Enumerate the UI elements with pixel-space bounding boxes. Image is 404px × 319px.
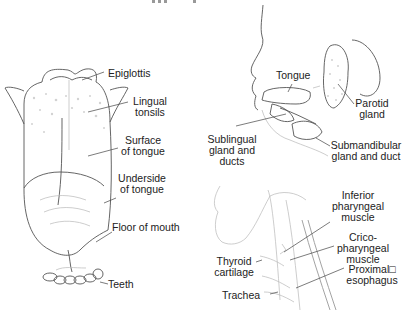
label-line: of tongue: [116, 184, 168, 195]
label-epiglottis: Epiglottis: [108, 68, 151, 79]
label-line: muscle: [328, 212, 388, 223]
label-teeth: Teeth: [108, 279, 134, 290]
label-sublingual-gland: Sublingual gland and ducts: [204, 134, 260, 167]
tongue-drawing: [5, 69, 128, 284]
label-inferior-pharyngeal-muscle: Inferior pharyngeal muscle: [328, 190, 388, 223]
label-line: tonsils: [126, 107, 174, 118]
label-floor-of-mouth: Floor of mouth: [112, 222, 180, 233]
label-lingual-tonsils: Lingual tonsils: [126, 96, 174, 118]
label-tongue: Tongue: [276, 70, 310, 81]
label-trachea: Trachea: [222, 290, 260, 301]
label-line: cartilage: [212, 267, 256, 278]
label-line: gland: [350, 109, 394, 120]
label-parotid-gland: Parotid gland: [350, 98, 394, 120]
label-line: gland and duct: [330, 151, 402, 162]
label-underside-of-tongue: Underside of tongue: [116, 173, 168, 195]
label-line: ducts: [204, 156, 260, 167]
label-proximal-esophagus: Proximal□ esophagus: [344, 264, 400, 286]
label-submandibular-gland: Submandibular gland and duct: [330, 140, 402, 162]
label-surface-of-tongue: Surface of tongue: [118, 135, 168, 157]
label-line: esophagus: [344, 275, 400, 286]
anatomy-diagram: Epiglottis Lingual tonsils Surface of to…: [0, 0, 404, 319]
label-line: of tongue: [118, 146, 168, 157]
label-thyroid-cartilage: Thyroid cartilage: [212, 256, 256, 278]
label-cricopharyngeal-muscle: Crico- pharyngeal muscle: [334, 232, 392, 265]
clipped-title-remnant: [152, 0, 196, 3]
